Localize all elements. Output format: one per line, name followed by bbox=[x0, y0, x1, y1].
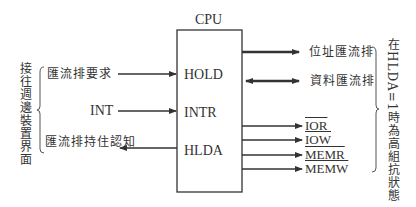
left-brace bbox=[37, 67, 44, 153]
right-group-label: 在HLDA=1時為高組抗狀態 bbox=[386, 38, 398, 202]
memr-signal: MEMR bbox=[305, 148, 345, 161]
address-bus-label: 位址匯流排 bbox=[309, 46, 374, 58]
bus-hold-ack-label: 匯流排持住認知 bbox=[45, 136, 136, 148]
pin-hlda: HLDA bbox=[184, 144, 223, 158]
bus-request-label: 匯流排要求 bbox=[47, 68, 112, 80]
int-label: INT bbox=[90, 104, 113, 118]
pin-intr: INTR bbox=[184, 106, 217, 120]
ior-signal: IOR bbox=[305, 119, 327, 132]
pin-hold: HOLD bbox=[184, 68, 223, 82]
data-bus-label: 資料匯流排 bbox=[310, 75, 375, 87]
left-group-label: 接往週邊裝置界面 bbox=[18, 62, 30, 166]
memw-signal: MEMW bbox=[305, 162, 348, 175]
diagram-lines bbox=[0, 0, 416, 207]
iow-signal: IOW bbox=[305, 133, 331, 146]
cpu-label: CPU bbox=[195, 13, 222, 27]
right-brace bbox=[372, 47, 379, 172]
